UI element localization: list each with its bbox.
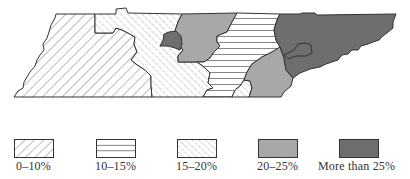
legend-label-15-20: 15–20% [176,159,217,174]
legend-swatch-10-15 [96,139,136,158]
wide-diagonal-hatch-icon [15,140,53,157]
fine-diagonal-hatch-icon [178,140,216,157]
legend-swatch-20-25 [258,139,298,158]
horizontal-lines-icon [97,140,135,157]
legend-label-more-than-25: More than 25% [318,159,395,174]
legend-label-20-25: 20–25% [257,159,298,174]
legend-swatch-0-10 [14,139,54,158]
legend-swatch-15-20 [177,139,217,158]
legend-swatch-more-than-25 [339,139,379,158]
legend: 0–10% 10–15% 15–20% 20–25% More than 25% [0,0,410,179]
legend-label-0-10: 0–10% [16,159,51,174]
legend-label-10-15: 10–15% [95,159,136,174]
